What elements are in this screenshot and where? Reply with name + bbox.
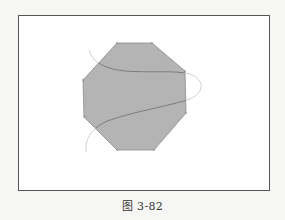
figure-canvas <box>0 0 285 220</box>
figure-caption: 图 3-82 <box>0 197 285 213</box>
octagon-shape <box>83 43 186 150</box>
